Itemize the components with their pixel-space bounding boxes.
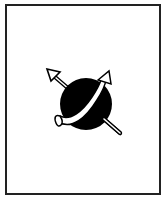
rotating-sphere-icon xyxy=(0,0,167,202)
axis-arrow-front xyxy=(104,119,120,133)
